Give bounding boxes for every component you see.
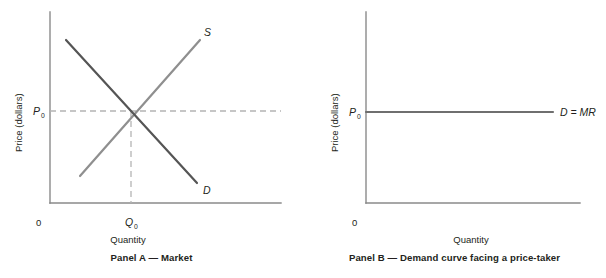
panel-b-plot: D = MR P 0 0 Price (dollars) Quantity [303,0,606,278]
panel-a-y-axis-title: Price (dollars) [13,93,24,152]
panel-b-y-axis-title: Price (dollars) [329,93,340,152]
panel-a-quantity-tick-label: Q [125,216,133,228]
panel-b-price-taker: D = MR P 0 0 Price (dollars) Quantity [303,0,606,278]
panel-a-origin-label: 0 [36,217,41,228]
panel-a-price-tick-label: P [33,105,40,117]
panel-b-caption: Panel B — Demand curve facing a price-ta… [303,252,606,263]
panel-a-market: S D P 0 Q 0 0 Price (dollars) Quantity [0,0,303,278]
panel-b-origin-label: 0 [352,217,357,228]
supply-curve [80,40,200,176]
figure-root: S D P 0 Q 0 0 Price (dollars) Quantity D… [0,0,606,278]
panel-a-price-tick-subscript: 0 [41,112,45,119]
panel-a-x-axis-title: Quantity [110,234,146,245]
panel-a-quantity-tick-subscript: 0 [134,223,138,230]
panel-b-x-axis-title: Quantity [453,234,489,245]
panel-b-price-tick-label: P [349,106,356,118]
demand-curve-label: D [203,184,211,196]
supply-curve-label: S [204,26,211,38]
panel-a-caption: Panel A — Market [0,252,303,263]
demand-mr-curve-label: D = MR [560,106,596,118]
panel-b-price-tick-subscript: 0 [357,113,361,120]
panel-a-plot: S D P 0 Q 0 0 Price (dollars) Quantity [0,0,303,278]
